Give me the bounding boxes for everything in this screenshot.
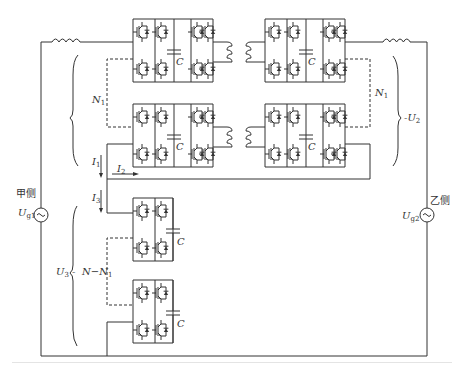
ac-source-ug1: [34, 208, 48, 222]
n1-left-label: N1: [92, 95, 105, 107]
hbridge-top-left: [133, 19, 215, 82]
n1-right-label: N1: [375, 88, 388, 100]
brace-right-u2: [393, 56, 401, 166]
ac-source-ug2: [420, 208, 434, 222]
i2-label: I2: [117, 164, 125, 176]
capacitor-label: C: [177, 237, 185, 247]
inductor-right: [383, 39, 410, 42]
circuit-diagram: C C C C C C N1 N1 -U2 U3 - N−N1 I1 I2 I3…: [0, 0, 462, 371]
i1-label: I1: [92, 157, 100, 169]
hbridge-mid-left: [133, 104, 215, 167]
divider: [12, 362, 452, 363]
transformer-top: [213, 42, 265, 62]
brace-left-u2: [70, 55, 78, 166]
side-a-label: 甲侧: [16, 189, 36, 199]
capacitor-label: C: [176, 142, 184, 152]
inductor-left: [52, 39, 80, 42]
ug2-label: Ug2: [402, 211, 419, 223]
circuit-schematic: [0, 0, 462, 371]
side-b-label: 乙侧: [430, 196, 450, 206]
capacitor-label: C: [308, 57, 316, 67]
capacitor-label: C: [308, 142, 316, 152]
n-minus-n1-label: N−N1: [82, 267, 112, 279]
u3-label: U3 -: [56, 267, 75, 279]
halfbridge-upper: [133, 198, 180, 261]
i3-label: I3: [92, 193, 100, 205]
halfbridge-lower: [133, 280, 180, 343]
capacitor-label: C: [176, 57, 184, 67]
hbridge-mid-right: [265, 104, 347, 167]
ug1-label: Ug1: [18, 208, 35, 220]
capacitor-label: C: [177, 319, 185, 329]
u2-label: -U2: [404, 113, 420, 125]
hbridge-top-right: [265, 19, 347, 82]
transformer-mid: [213, 127, 265, 147]
